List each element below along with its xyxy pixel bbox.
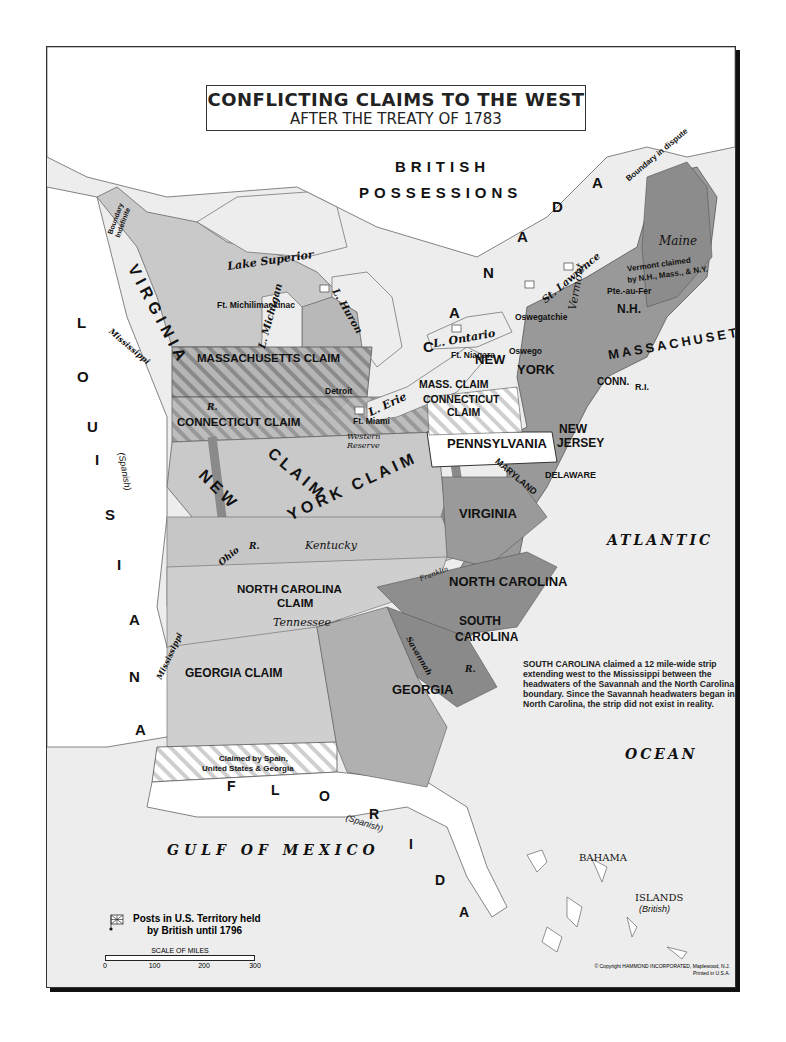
florida-letter: L xyxy=(271,783,280,797)
louisiana-letter: L xyxy=(77,315,86,330)
label-pennsylvania: PENNSYLVANIA xyxy=(447,437,547,450)
legend-posts-line-2: by British until 1796 xyxy=(133,925,293,937)
florida-letter: I xyxy=(409,837,413,851)
label-north-carolina: NORTH CAROLINA xyxy=(449,575,567,588)
label-new-jersey-1: NEW xyxy=(559,423,587,435)
label-river-r2: R. xyxy=(249,542,260,551)
label-massachusetts-claim: MASSACHUSETTS CLAIM xyxy=(197,353,340,365)
label-georgia-claim: GEORGIA CLAIM xyxy=(185,667,283,679)
louisiana-letter: O xyxy=(77,369,89,384)
post-label: Oswego xyxy=(509,347,542,356)
scale-caption: SCALE OF MILES xyxy=(105,947,255,954)
label-atlantic: ATLANTIC xyxy=(607,533,713,547)
label-new-jersey-2: JERSEY xyxy=(557,437,604,449)
map-title: CONFLICTING CLAIMS TO THE WEST xyxy=(207,90,585,110)
florida-letter: D xyxy=(435,873,445,887)
label-british: BRITISH xyxy=(395,159,490,174)
label-islands: ISLANDS xyxy=(635,893,683,903)
label-connecticut-claim-short-2: CLAIM xyxy=(447,407,480,418)
canada-letter: D xyxy=(552,199,563,214)
canada-letter: A xyxy=(449,305,460,320)
label-possessions: POSSESSIONS xyxy=(359,185,522,200)
scale-bar: SCALE OF MILES 0 100 200 300 xyxy=(105,947,255,971)
label-river-r1: R. xyxy=(207,403,218,412)
louisiana-letter: I xyxy=(95,452,99,467)
canada-letter: A xyxy=(517,229,528,244)
post-label: Ft. Miami xyxy=(353,417,390,426)
louisiana-letter: U xyxy=(87,419,98,434)
label-conn: CONN. xyxy=(597,377,629,387)
label-mass-claim: MASS. CLAIM xyxy=(419,379,488,390)
label-ri: R.I. xyxy=(635,383,649,392)
copyright: © Copyright HAMMOND INCORPORATED, Maplew… xyxy=(592,963,730,977)
label-gulf-of-mexico: GULF OF MEXICO xyxy=(167,843,380,857)
label-spain-claim-1: Claimed by Spain, xyxy=(219,755,288,763)
label-south-carolina-2: CAROLINA xyxy=(455,631,518,643)
map-title-box: CONFLICTING CLAIMS TO THE WEST AFTER THE… xyxy=(206,85,586,131)
copyright-line-2: Printed in U.S.A. xyxy=(592,970,730,977)
georgia-claim-region xyxy=(167,627,337,747)
label-western-reserve-1: Western xyxy=(347,433,380,441)
label-new-york-2: YORK xyxy=(517,363,555,376)
label-river-r3: R. xyxy=(465,665,476,674)
legend-posts-line-1: Posts in U.S. Territory held xyxy=(133,913,293,925)
label-spain-claim-2: United States & Georgia xyxy=(202,765,294,773)
florida-letter: O xyxy=(319,789,330,803)
label-maine: Maine xyxy=(659,235,697,247)
label-british-note: (British) xyxy=(639,905,670,914)
scale-tick: 0 xyxy=(103,962,107,969)
florida-letter: F xyxy=(227,779,236,793)
scale-tick: 100 xyxy=(149,962,161,969)
label-north-carolina-claim-1: NORTH CAROLINA xyxy=(237,584,342,596)
post-label: Oswegatchie xyxy=(515,313,567,322)
label-virginia: VIRGINIA xyxy=(459,507,517,520)
map-frame: CONFLICTING CLAIMS TO THE WEST AFTER THE… xyxy=(46,46,736,988)
label-bahama: BAHAMA xyxy=(579,853,627,863)
post-label: Detroit xyxy=(325,387,352,396)
map-subtitle: AFTER THE TREATY OF 1783 xyxy=(207,110,585,128)
florida-letter: A xyxy=(459,905,469,919)
louisiana-letter: I xyxy=(117,557,121,572)
post-label: Ft. Niagara xyxy=(451,351,495,360)
scale-tick: 200 xyxy=(198,962,210,969)
legend: Posts in U.S. Territory held by British … xyxy=(107,913,127,937)
post-label: Pte.-au-Fer xyxy=(607,287,651,296)
post-label: Ft. Michilimackinac xyxy=(217,301,295,310)
label-nh: N.H. xyxy=(617,303,641,315)
label-north-carolina-claim-2: CLAIM xyxy=(277,598,313,610)
canada-letter: N xyxy=(483,265,494,280)
label-connecticut-claim-short-1: CONNECTICUT xyxy=(423,394,499,405)
label-tennessee: Tennessee xyxy=(273,617,331,628)
british-flag-icon xyxy=(107,913,127,933)
label-georgia: GEORGIA xyxy=(392,683,453,696)
label-connecticut-claim: CONNECTICUT CLAIM xyxy=(177,417,300,429)
south-carolina-note: SOUTH CAROLINA claimed a 12 mile-wide st… xyxy=(523,659,735,709)
louisiana-letter: A xyxy=(129,612,140,627)
copyright-line-1: © Copyright HAMMOND INCORPORATED, Maplew… xyxy=(592,963,730,970)
scale-ticks: 0 100 200 300 xyxy=(105,961,255,971)
label-kentucky: Kentucky xyxy=(305,540,357,551)
label-ocean: OCEAN xyxy=(625,747,698,761)
label-western-reserve-2: Reserve xyxy=(347,442,380,450)
louisiana-letter: N xyxy=(129,669,140,684)
legend-posts-label: Posts in U.S. Territory held by British … xyxy=(133,913,293,937)
label-south-carolina-1: SOUTH xyxy=(459,615,501,627)
louisiana-letter: S xyxy=(105,507,115,522)
canada-letter: A xyxy=(592,175,603,190)
label-delaware: DELAWARE xyxy=(545,471,596,480)
louisiana-letter: A xyxy=(135,722,146,737)
note-lead: SOUTH CAROLINA xyxy=(523,659,601,669)
scale-tick: 300 xyxy=(249,962,261,969)
